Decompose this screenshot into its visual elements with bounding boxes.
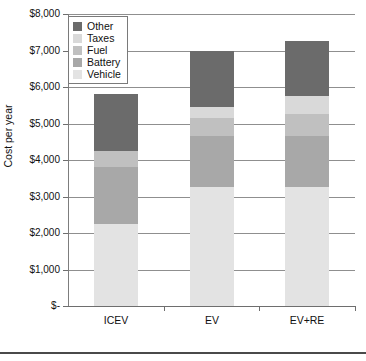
y-tick-label: $1,000	[0, 265, 69, 275]
y-tick-label: $8,000	[0, 9, 69, 19]
legend-swatch-icon	[73, 22, 82, 31]
y-tick-label: $2,000	[0, 228, 69, 238]
bar-stack	[285, 41, 329, 306]
legend-item-vehicle[interactable]: Vehicle	[73, 68, 121, 80]
bar-segment-vehicle	[285, 187, 329, 306]
footer-rule	[0, 352, 366, 354]
bar-segment-vehicle	[190, 187, 234, 306]
legend-label: Fuel	[87, 45, 107, 56]
legend-label: Vehicle	[87, 69, 121, 80]
legend-swatch-icon	[73, 34, 82, 43]
bar-stack	[94, 94, 138, 306]
y-axis-title: Cost per year	[2, 76, 14, 196]
bar-segment-taxes	[190, 107, 234, 118]
bar-segment-battery	[285, 136, 329, 187]
legend-swatch-icon	[73, 46, 82, 55]
x-axis-line	[68, 306, 356, 307]
bar-segment-vehicle	[94, 224, 138, 306]
bar-segment-taxes	[285, 96, 329, 114]
legend-item-fuel[interactable]: Fuel	[73, 44, 121, 56]
legend-label: Battery	[87, 57, 120, 68]
bar-segment-other	[190, 51, 234, 108]
bar-segment-fuel	[94, 151, 138, 167]
x-tick-mark	[259, 306, 260, 311]
x-tick-mark	[164, 306, 165, 311]
x-tick-label-ev: EV	[167, 314, 257, 326]
legend-swatch-icon	[73, 70, 82, 79]
legend-label: Taxes	[87, 33, 114, 44]
legend-item-other[interactable]: Other	[73, 20, 121, 32]
bar-segment-other	[94, 94, 138, 151]
x-tick-label-ev-re: EV+RE	[262, 314, 352, 326]
bar-segment-battery	[94, 167, 138, 224]
x-tick-label-icev: ICEV	[71, 314, 161, 326]
legend-item-taxes[interactable]: Taxes	[73, 32, 121, 44]
bar-segment-fuel	[285, 114, 329, 136]
y-tick-label: $-	[0, 301, 69, 311]
bar-stack	[190, 51, 234, 307]
legend-label: Other	[87, 21, 113, 32]
y-tick-label: $7,000	[0, 46, 69, 56]
stacked-bar-ev	[190, 14, 234, 306]
legend-item-battery[interactable]: Battery	[73, 56, 121, 68]
stacked-bar-ev-re	[285, 14, 329, 306]
bar-segment-other	[285, 41, 329, 96]
bar-segment-battery	[190, 136, 234, 187]
chart-legend: OtherTaxesFuelBatteryVehicle	[68, 16, 128, 84]
x-tick-mark	[355, 306, 356, 311]
bar-segment-fuel	[190, 118, 234, 136]
legend-swatch-icon	[73, 58, 82, 67]
stacked-bar-chart: $-$1,000$2,000$3,000$4,000$5,000$6,000$7…	[0, 0, 366, 361]
